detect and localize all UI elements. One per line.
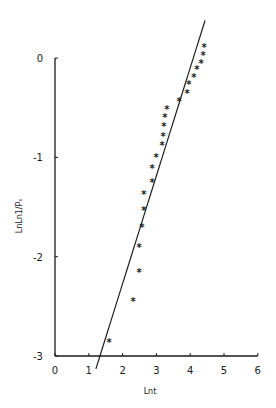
y-tick-label: -3 <box>33 351 43 362</box>
data-point: * <box>141 189 147 200</box>
data-point: * <box>149 163 155 174</box>
fitted-line <box>96 20 205 369</box>
data-point: * <box>191 72 197 83</box>
data-point: * <box>130 296 136 307</box>
fit-line <box>96 20 205 369</box>
data-point: * <box>137 242 143 253</box>
x-tick-label: 6 <box>255 365 261 376</box>
axes <box>55 58 258 356</box>
weibull-plot: 01234560-1-2-3 *********************** L… <box>0 0 276 408</box>
data-point: * <box>185 88 191 99</box>
data-point: * <box>106 337 112 348</box>
y-tick-label: -2 <box>33 252 43 263</box>
x-tick-label: 0 <box>52 365 58 376</box>
data-point: * <box>137 267 143 278</box>
data-point: * <box>176 96 182 107</box>
x-tick-label: 2 <box>119 365 125 376</box>
data-point: * <box>149 177 155 188</box>
data-point: * <box>153 152 159 163</box>
data-point: * <box>160 140 166 151</box>
x-tick-label: 5 <box>221 365 227 376</box>
data-point: * <box>139 222 145 233</box>
x-tick-label: 1 <box>86 365 92 376</box>
y-axis-label: LnLn1/Pₛ <box>15 199 24 234</box>
data-point: * <box>141 205 147 216</box>
x-tick-label: 4 <box>187 365 193 376</box>
x-axis-label: Lnt <box>144 387 157 396</box>
data-points: *********************** <box>106 42 207 348</box>
y-tick-label: -1 <box>33 152 43 163</box>
y-tick-label: 0 <box>37 53 43 64</box>
tick-labels: 01234560-1-2-3 <box>33 53 261 376</box>
x-tick-label: 3 <box>153 365 159 376</box>
